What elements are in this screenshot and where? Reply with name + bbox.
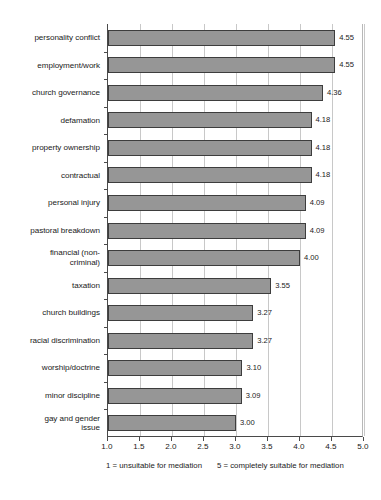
category-label-line: financial (non-	[50, 248, 100, 258]
category-label: contractual	[0, 162, 103, 190]
bar-row: 3.10	[108, 360, 362, 376]
x-axis-tick	[171, 437, 172, 441]
x-axis-tick	[299, 437, 300, 441]
x-axis-tick-label: 5.0	[357, 443, 368, 451]
y-axis-tick	[104, 217, 108, 218]
bar	[108, 223, 306, 239]
x-axis-tick-label: 1.0	[101, 443, 112, 451]
bar-value-label: 3.27	[257, 337, 272, 345]
category-label: minor discipline	[0, 382, 103, 410]
category-label: financial (non-criminal)	[0, 244, 103, 272]
bar-row: 3.27	[108, 305, 362, 321]
y-axis-tick	[104, 79, 108, 80]
category-label: pastoral breakdown	[0, 217, 103, 245]
bar	[108, 305, 253, 321]
category-label-line: racial discrimination	[30, 336, 100, 346]
x-axis-tick-label: 2.0	[165, 443, 176, 451]
bar	[108, 195, 306, 211]
y-axis-tick	[104, 354, 108, 355]
bar-value-label: 4.36	[327, 89, 342, 97]
bar-row: 3.55	[108, 278, 362, 294]
x-axis: 1.01.52.02.53.03.54.04.55.0	[107, 437, 363, 459]
x-axis-tick-label: 3.5	[261, 443, 272, 451]
y-axis-tick	[104, 327, 108, 328]
bar-row: 4.55	[108, 57, 362, 73]
category-label-line: issue	[81, 423, 100, 433]
bar	[108, 30, 335, 46]
category-label-line: personal injury	[48, 198, 100, 208]
bar-row: 4.36	[108, 85, 362, 101]
category-label-line: employment/work	[37, 61, 100, 71]
bar-value-label: 4.09	[310, 199, 325, 207]
bar-row: 4.18	[108, 112, 362, 128]
bar-value-label: 3.09	[246, 392, 261, 400]
category-label: worship/doctrine	[0, 354, 103, 382]
category-label-line: criminal)	[70, 258, 100, 268]
category-label-line: property ownership	[32, 143, 100, 153]
bar-row: 4.00	[108, 250, 362, 266]
plot-area: 4.554.554.364.184.184.184.094.094.003.55…	[107, 24, 363, 437]
bar-value-label: 4.55	[339, 62, 354, 70]
x-axis-tick	[107, 437, 108, 441]
bar-value-label: 3.27	[257, 309, 272, 317]
bar-value-label: 3.10	[246, 364, 261, 372]
category-label-line: gay and gender	[44, 414, 100, 424]
bar-value-label: 3.55	[275, 282, 290, 290]
category-label-line: church governance	[32, 88, 100, 98]
bar-row: 3.00	[108, 415, 362, 431]
bar-value-label: 4.18	[316, 172, 331, 180]
bar	[108, 278, 271, 294]
bar	[108, 360, 242, 376]
bar	[108, 85, 323, 101]
bar-row: 4.09	[108, 223, 362, 239]
category-label: employment/work	[0, 52, 103, 80]
bar-row: 3.09	[108, 388, 362, 404]
category-label: racial discrimination	[0, 327, 103, 355]
x-axis-tick-label: 1.5	[133, 443, 144, 451]
x-axis-tick	[235, 437, 236, 441]
category-label-line: personality conflict	[34, 33, 100, 43]
x-axis-tick	[331, 437, 332, 441]
category-label: church buildings	[0, 299, 103, 327]
footnotes: 1 = unsuitable for mediation 5 = complet…	[0, 462, 381, 476]
x-axis-tick-label: 2.5	[197, 443, 208, 451]
category-label: property ownership	[0, 134, 103, 162]
x-axis-tick	[203, 437, 204, 441]
category-label-line: contractual	[61, 171, 100, 181]
y-axis-tick	[104, 272, 108, 273]
y-axis-tick	[104, 244, 108, 245]
bar	[108, 112, 312, 128]
category-label-line: pastoral breakdown	[30, 226, 100, 236]
category-label: taxation	[0, 272, 103, 300]
y-axis-tick	[104, 299, 108, 300]
x-axis-tick-label: 4.0	[293, 443, 304, 451]
category-label-line: defamation	[60, 116, 100, 126]
bar	[108, 415, 236, 431]
bar	[108, 333, 253, 349]
x-axis-tick	[139, 437, 140, 441]
category-label: church governance	[0, 79, 103, 107]
y-axis-tick	[104, 162, 108, 163]
y-axis-tick	[104, 189, 108, 190]
bar-row: 4.18	[108, 167, 362, 183]
category-label: personality conflict	[0, 24, 103, 52]
footnote-scale-low: 1 = unsuitable for mediation	[106, 462, 202, 470]
y-axis-tick	[104, 382, 108, 383]
y-axis-tick	[104, 107, 108, 108]
category-axis: personality conflictemployment/workchurc…	[0, 24, 103, 437]
x-axis-tick-label: 3.0	[229, 443, 240, 451]
bar-value-label: 4.18	[316, 144, 331, 152]
bar	[108, 140, 312, 156]
bar	[108, 57, 335, 73]
bar-row: 3.27	[108, 333, 362, 349]
y-axis-tick	[104, 52, 108, 53]
bar-value-label: 4.09	[310, 227, 325, 235]
category-label-line: taxation	[72, 281, 100, 291]
bar	[108, 250, 300, 266]
bar-value-label: 4.00	[304, 254, 319, 262]
bar	[108, 388, 242, 404]
gridline	[364, 24, 365, 436]
y-axis-tick	[104, 409, 108, 410]
x-axis-tick-label: 4.5	[325, 443, 336, 451]
category-label-line: minor discipline	[45, 391, 100, 401]
